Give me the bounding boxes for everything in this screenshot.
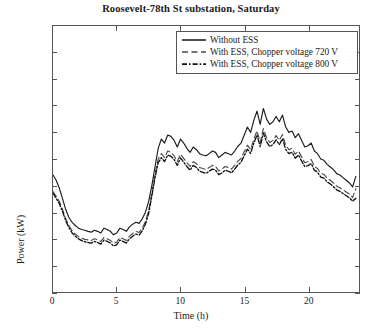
x-axis-label: Time (h) xyxy=(0,310,382,321)
y-tick-mark xyxy=(355,132,360,133)
y-tick-mark xyxy=(355,213,360,214)
x-tick-mark xyxy=(52,287,53,293)
y-tick-mark xyxy=(355,266,360,267)
y-tick-mark xyxy=(52,159,57,160)
legend-item: Without ESS xyxy=(181,34,354,46)
x-tick-label: 0 xyxy=(50,296,55,306)
legend-label: Without ESS xyxy=(210,35,258,45)
y-tick-mark xyxy=(355,79,360,80)
y-tick-mark xyxy=(355,25,360,26)
chart-title: Roosevelt-78th St substation, Saturday xyxy=(0,3,382,14)
x-tick-label: 10 xyxy=(176,296,186,306)
y-tick-mark xyxy=(52,132,57,133)
x-tick-label: 5 xyxy=(114,296,119,306)
y-tick-mark xyxy=(355,239,360,240)
x-tick-label: 15 xyxy=(240,296,250,306)
y-tick-mark xyxy=(355,186,360,187)
y-tick-mark xyxy=(355,293,360,294)
y-tick-mark xyxy=(52,266,57,267)
legend-line-sample xyxy=(181,35,207,45)
legend-item: With ESS, Chopper voltage 720 V xyxy=(181,46,354,58)
y-tick-mark xyxy=(52,239,57,240)
x-tick-mark xyxy=(309,287,310,293)
y-tick-mark xyxy=(52,186,57,187)
y-tick-mark xyxy=(52,52,57,53)
y-tick-mark xyxy=(52,79,57,80)
y-tick-mark xyxy=(52,105,57,106)
x-tick-mark xyxy=(116,25,117,31)
series-line-3 xyxy=(53,133,356,246)
y-axis-label: Power (kW) xyxy=(15,180,26,300)
y-tick-mark xyxy=(52,293,57,294)
legend-line-sample xyxy=(181,59,207,69)
y-tick-mark xyxy=(355,159,360,160)
legend-line-sample xyxy=(181,47,207,57)
y-tick-mark xyxy=(355,105,360,106)
x-tick-mark xyxy=(52,25,53,31)
y-tick-mark xyxy=(52,213,57,214)
legend-label: With ESS, Chopper voltage 720 V xyxy=(210,47,338,57)
legend-item: With ESS, Chopper voltage 800 V xyxy=(181,58,354,70)
figure: Roosevelt-78th St substation, Saturday 0… xyxy=(0,0,382,334)
x-tick-mark xyxy=(116,287,117,293)
x-tick-label: 20 xyxy=(304,296,314,306)
legend-label: With ESS, Chopper voltage 800 V xyxy=(210,59,338,69)
x-tick-mark xyxy=(180,287,181,293)
x-tick-mark xyxy=(245,287,246,293)
legend: Without ESSWith ESS, Chopper voltage 720… xyxy=(176,31,358,74)
series-line-2 xyxy=(53,129,356,244)
series-line-1 xyxy=(53,108,356,234)
y-axis-label-box: Power (kW) xyxy=(8,100,22,170)
